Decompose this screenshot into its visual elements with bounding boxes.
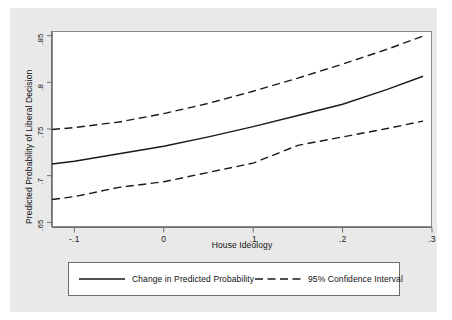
legend: Change in Predicted Probability 95% Conf… <box>68 262 400 296</box>
y-axis-title: Predicted Probability of Liberal Decisio… <box>24 70 34 224</box>
x-axis-title: House Ideology <box>52 240 432 250</box>
legend-sample-solid-line <box>79 274 125 284</box>
y-tick-label: .8 <box>36 84 45 91</box>
y-tick-label: .85 <box>36 33 45 45</box>
predicted-probability-curve <box>52 76 423 164</box>
legend-label-predicted-probability: Change in Predicted Probability <box>132 274 254 284</box>
plot-curves <box>52 31 432 227</box>
confidence-interval-lower-curve <box>52 121 423 199</box>
y-tick-label: .65 <box>36 220 45 232</box>
legend-label-confidence-interval: 95% Confidence Interval <box>308 274 403 284</box>
confidence-interval-upper-curve <box>52 36 423 129</box>
legend-entry-predicted-probability: Change in Predicted Probability <box>79 272 254 286</box>
legend-sample-dashed-line <box>255 274 301 284</box>
y-tick-label: .7 <box>36 178 45 185</box>
legend-entry-confidence-interval: 95% Confidence Interval <box>255 272 403 286</box>
chart-figure: .65.7.75.8.85 -.10.1.2.3 Predicted Proba… <box>0 0 452 320</box>
y-tick-label: .75 <box>36 126 45 138</box>
